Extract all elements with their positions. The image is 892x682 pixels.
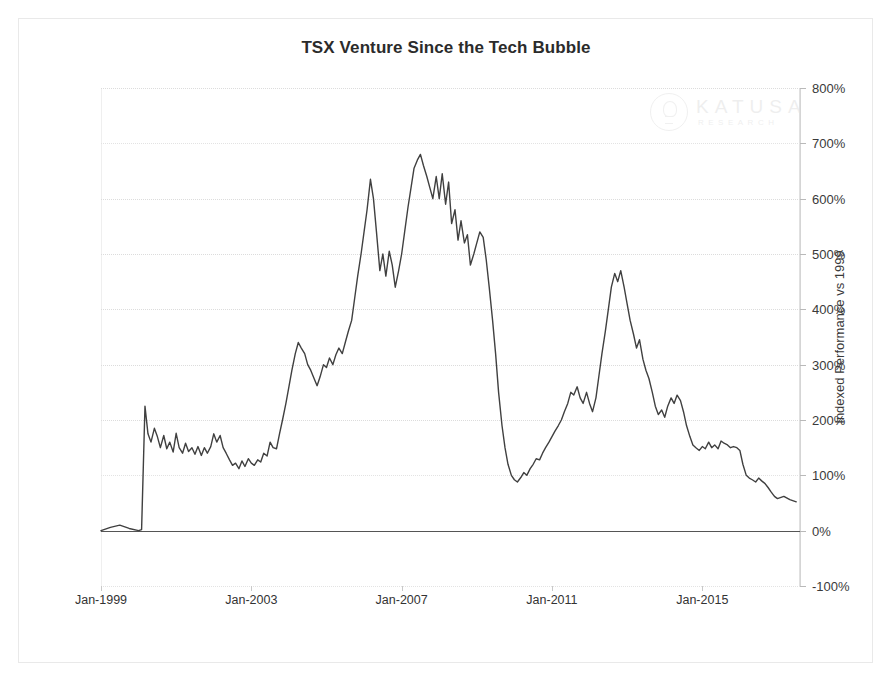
- y-tick-700%: [800, 143, 806, 144]
- x-axis-label-Jan-1999: Jan-1999: [75, 593, 127, 607]
- y-tick-300%: [800, 365, 806, 366]
- y-tick-200%: [800, 420, 806, 421]
- x-axis-label-Jan-2015: Jan-2015: [676, 593, 728, 607]
- y-tick-0%: [800, 531, 806, 532]
- y-tick--100%: [800, 586, 806, 587]
- y-axis-label-800%: 800%: [812, 81, 845, 96]
- x-tick-Jan-2011: [552, 586, 553, 591]
- x-tick-Jan-2015: [702, 586, 703, 591]
- y-axis-label--100%: -100%: [812, 579, 850, 594]
- gridline--100%: [101, 586, 800, 587]
- y-axis-label-600%: 600%: [812, 191, 845, 206]
- x-tick-Jan-2007: [402, 586, 403, 591]
- y-axis-label-0%: 0%: [812, 523, 831, 538]
- y-tick-600%: [800, 199, 806, 200]
- y-tick-800%: [800, 88, 806, 89]
- y-axis-line: [800, 88, 801, 586]
- series-line-tsx-venture: [101, 88, 800, 586]
- x-axis-label-Jan-2007: Jan-2007: [376, 593, 428, 607]
- plot-area: [101, 88, 800, 586]
- y-axis-label-100%: 100%: [812, 468, 845, 483]
- chart-figure: TSX Venture Since the Tech Bubble KATUSA…: [0, 0, 892, 682]
- y-tick-400%: [800, 309, 806, 310]
- x-axis-label-Jan-2011: Jan-2011: [526, 593, 577, 607]
- y-tick-500%: [800, 254, 806, 255]
- y-axis-label-700%: 700%: [812, 136, 845, 151]
- x-axis-label-Jan-2003: Jan-2003: [225, 593, 277, 607]
- chart-title: TSX Venture Since the Tech Bubble: [0, 38, 892, 58]
- x-tick-Jan-2003: [251, 586, 252, 591]
- y-axis-title: Indexed Performance vs 1999: [832, 250, 847, 423]
- y-tick-100%: [800, 475, 806, 476]
- x-tick-Jan-1999: [101, 586, 102, 591]
